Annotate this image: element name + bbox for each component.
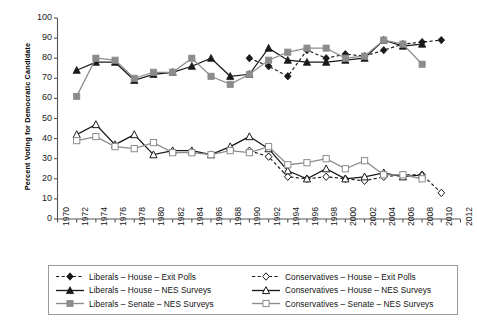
series-marker — [400, 41, 406, 47]
series-marker — [265, 57, 271, 63]
series-marker — [285, 162, 291, 168]
legend-key-triangle-filled-icon — [55, 285, 85, 296]
legend-key-square-filled-icon — [55, 298, 85, 309]
series-marker — [381, 172, 387, 178]
series-marker — [188, 62, 195, 69]
legend-key-diamond-filled-icon — [55, 271, 85, 282]
legend-key-marker — [67, 273, 74, 280]
series-marker — [150, 140, 156, 146]
series-marker — [381, 37, 387, 43]
chart-figure: Percent Voting for Democratic Candidate … — [0, 0, 477, 335]
series-marker — [170, 69, 176, 75]
legend-key-marker — [263, 301, 269, 307]
legend-grid: Liberals – House – Exit PollsConservativ… — [55, 270, 453, 311]
legend-key-marker — [67, 301, 73, 307]
legend-label: Liberals – House – Exit Polls — [89, 272, 196, 282]
series-marker — [112, 144, 118, 150]
series-marker — [323, 45, 329, 51]
series-marker — [189, 150, 195, 156]
series-marker — [323, 156, 329, 162]
series-marker — [92, 121, 99, 128]
legend-entry: Liberals – Senate – NES Surveys — [55, 298, 251, 309]
legend-key-marker — [263, 273, 270, 280]
series-marker — [361, 158, 367, 164]
series-marker — [74, 138, 80, 144]
series-marker — [438, 36, 445, 43]
legend-label: Conservatives – House – Exit Polls — [285, 272, 416, 282]
series-marker — [93, 133, 99, 139]
legend-entry: Conservatives – Senate – NES Surveys — [251, 298, 453, 309]
series-marker — [265, 144, 271, 150]
series-marker — [438, 189, 445, 196]
series-marker — [246, 133, 253, 140]
series-marker — [342, 55, 348, 61]
series-marker — [361, 53, 367, 59]
series-marker — [131, 75, 137, 81]
series-marker — [285, 49, 291, 55]
series-marker — [208, 73, 214, 79]
series-marker — [112, 57, 118, 63]
series-marker — [227, 81, 233, 87]
legend-label: Liberals – House – NES Surveys — [89, 285, 211, 295]
series-marker — [73, 66, 80, 73]
legend-key-square-open-icon — [251, 298, 281, 309]
series-marker — [304, 160, 310, 166]
series-marker — [246, 71, 252, 77]
series-marker — [131, 131, 138, 138]
legend-entry: Liberals – House – NES Surveys — [55, 285, 251, 296]
legend-entry: Liberals – House – Exit Polls — [55, 271, 251, 282]
series-marker — [246, 55, 253, 62]
series-line — [77, 40, 422, 96]
series-marker — [419, 176, 425, 182]
series-marker — [323, 165, 330, 172]
legend-label: Conservatives – House – NES Surveys — [285, 285, 431, 295]
series-marker — [208, 152, 214, 158]
series-marker — [131, 146, 137, 152]
legend-label: Liberals – Senate – NES Surveys — [89, 299, 214, 309]
series-marker — [150, 69, 156, 75]
series-marker — [227, 148, 233, 154]
chart-legend: Liberals – House – Exit PollsConservativ… — [48, 265, 458, 315]
series-marker — [73, 131, 80, 138]
series-2 — [74, 37, 426, 99]
series-marker — [304, 45, 310, 51]
series-marker — [246, 150, 252, 156]
legend-label: Conservatives – Senate – NES Surveys — [285, 299, 433, 309]
series-marker — [323, 173, 330, 180]
series-marker — [189, 55, 195, 61]
series-marker — [419, 61, 425, 67]
series-marker — [265, 44, 272, 51]
legend-entry: Conservatives – House – Exit Polls — [251, 271, 453, 282]
series-marker — [400, 172, 406, 178]
series-line — [77, 137, 422, 179]
series-marker — [380, 46, 387, 53]
series-marker — [93, 55, 99, 61]
series-marker — [207, 54, 214, 61]
legend-key-triangle-open-icon — [251, 285, 281, 296]
series-marker — [342, 166, 348, 172]
legend-entry: Conservatives – House – NES Surveys — [251, 285, 453, 296]
legend-key-diamond-open-icon — [251, 271, 281, 282]
series-marker — [170, 150, 176, 156]
series-marker — [74, 93, 80, 99]
